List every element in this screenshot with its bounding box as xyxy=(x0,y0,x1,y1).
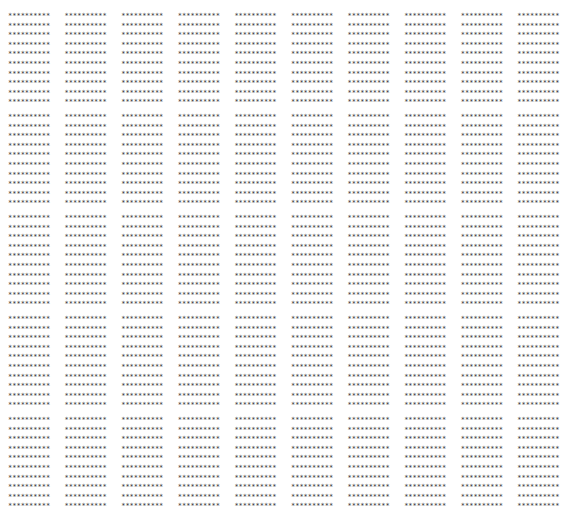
asterisk-line: ********** xyxy=(404,190,461,200)
asterisk-line: ********** xyxy=(234,426,291,436)
asterisk-line: ********** xyxy=(121,392,178,402)
asterisk-line: ********** xyxy=(404,224,461,234)
asterisk-line: ********** xyxy=(291,70,348,80)
asterisk-line: ********** xyxy=(234,132,291,142)
asterisk-line: ********** xyxy=(178,31,235,41)
asterisk-line: ********** xyxy=(234,22,291,32)
asterisk-line: ********** xyxy=(234,300,291,310)
asterisk-line: ********** xyxy=(404,161,461,171)
asterisk-line: ********** xyxy=(121,344,178,354)
asterisk-line: ********** xyxy=(8,464,65,474)
asterisk-line: ********** xyxy=(461,325,518,335)
asterisk-line: ********** xyxy=(291,31,348,41)
asterisk-line: ********** xyxy=(234,353,291,363)
asterisk-line: ********** xyxy=(8,50,65,60)
asterisk-line: ********** xyxy=(517,161,574,171)
asterisk-line: ********** xyxy=(517,151,574,161)
asterisk-line: ********** xyxy=(461,199,518,209)
asterisk-line: ********** xyxy=(348,22,405,32)
asterisk-line: ********** xyxy=(178,464,235,474)
asterisk-line: ********** xyxy=(291,281,348,291)
asterisk-line: ********** xyxy=(348,483,405,493)
asterisk-line: ********** xyxy=(517,243,574,253)
asterisk-line: ********** xyxy=(461,180,518,190)
asterisk-line: ********** xyxy=(234,151,291,161)
asterisk-line: ********** xyxy=(121,363,178,373)
asterisk-line: ********** xyxy=(291,353,348,363)
asterisk-line: ********** xyxy=(234,89,291,99)
asterisk-line: ********** xyxy=(234,214,291,224)
asterisk-line: ********** xyxy=(461,151,518,161)
asterisk-line: ********** xyxy=(404,483,461,493)
asterisk-line: ********** xyxy=(121,483,178,493)
asterisk-line: ********** xyxy=(121,89,178,99)
asterisk-line: ********** xyxy=(517,334,574,344)
asterisk-line: ********** xyxy=(348,60,405,70)
asterisk-line: ********** xyxy=(65,123,122,133)
asterisk-line: ********** xyxy=(121,70,178,80)
asterisk-line: ********** xyxy=(348,382,405,392)
asterisk-line: ********** xyxy=(291,89,348,99)
asterisk-line: ********** xyxy=(517,474,574,484)
asterisk-line: ********** xyxy=(8,22,65,32)
asterisk-line: ********** xyxy=(461,445,518,455)
asterisk-block: ****************************************… xyxy=(348,416,405,511)
asterisk-line: ********** xyxy=(8,224,65,234)
asterisk-line: ********** xyxy=(291,142,348,152)
asterisk-line: ********** xyxy=(348,416,405,426)
asterisk-line: ********** xyxy=(178,416,235,426)
asterisk-block: ****************************************… xyxy=(404,416,461,511)
asterisk-line: ********** xyxy=(178,382,235,392)
asterisk-line: ********** xyxy=(291,483,348,493)
asterisk-line: ********** xyxy=(461,262,518,272)
asterisk-line: ********** xyxy=(65,132,122,142)
asterisk-line: ********** xyxy=(348,233,405,243)
asterisk-line: ********** xyxy=(291,190,348,200)
asterisk-block: ****************************************… xyxy=(291,214,348,315)
asterisk-line: ********** xyxy=(348,142,405,152)
asterisk-line: ********** xyxy=(65,483,122,493)
asterisk-block: ****************************************… xyxy=(234,113,291,214)
asterisk-block: ****************************************… xyxy=(234,214,291,315)
asterisk-line: ********** xyxy=(348,89,405,99)
asterisk-line: ********** xyxy=(517,262,574,272)
asterisk-line: ********** xyxy=(121,401,178,411)
asterisk-line: ********** xyxy=(65,281,122,291)
asterisk-line: ********** xyxy=(234,373,291,383)
asterisk-line: ********** xyxy=(8,445,65,455)
asterisk-line: ********** xyxy=(234,392,291,402)
asterisk-block: ****************************************… xyxy=(517,12,574,113)
asterisk-line: ********** xyxy=(517,132,574,142)
asterisk-line: ********** xyxy=(291,382,348,392)
asterisk-line: ********** xyxy=(461,98,518,108)
asterisk-line: ********** xyxy=(404,474,461,484)
asterisk-line: ********** xyxy=(65,392,122,402)
asterisk-line: ********** xyxy=(234,464,291,474)
asterisk-line: ********** xyxy=(461,464,518,474)
asterisk-line: ********** xyxy=(121,224,178,234)
asterisk-block: ****************************************… xyxy=(404,214,461,315)
asterisk-line: ********** xyxy=(65,426,122,436)
asterisk-line: ********** xyxy=(461,190,518,200)
asterisk-line: ********** xyxy=(517,435,574,445)
asterisk-line: ********** xyxy=(404,252,461,262)
asterisk-line: ********** xyxy=(348,373,405,383)
asterisk-line: ********** xyxy=(291,416,348,426)
asterisk-line: ********** xyxy=(234,224,291,234)
asterisk-line: ********** xyxy=(404,233,461,243)
asterisk-block: ****************************************… xyxy=(65,12,122,113)
asterisk-line: ********** xyxy=(291,22,348,32)
asterisk-line: ********** xyxy=(348,132,405,142)
asterisk-line: ********** xyxy=(517,22,574,32)
asterisk-line: ********** xyxy=(65,334,122,344)
asterisk-line: ********** xyxy=(348,199,405,209)
asterisk-line: ********** xyxy=(461,382,518,392)
asterisk-line: ********** xyxy=(8,79,65,89)
asterisk-line: ********** xyxy=(121,243,178,253)
asterisk-line: ********** xyxy=(234,291,291,301)
asterisk-block: ****************************************… xyxy=(461,315,518,416)
asterisk-line: ********** xyxy=(404,199,461,209)
asterisk-line: ********** xyxy=(178,113,235,123)
asterisk-line: ********** xyxy=(234,493,291,503)
asterisk-line: ********** xyxy=(348,464,405,474)
